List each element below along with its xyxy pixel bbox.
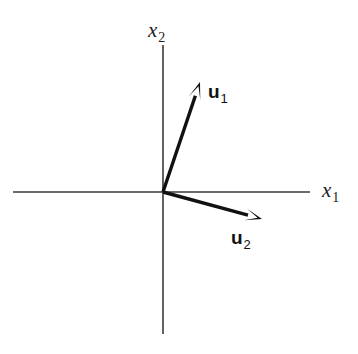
axis-label-x2: x2: [148, 20, 164, 41]
vector-label-u1-subscript: 1: [221, 91, 228, 106]
vector-u2-shaft: [163, 192, 248, 215]
vector-u2: [163, 192, 262, 220]
vector-label-u2-variable: u: [231, 227, 243, 248]
axis-label-x2-variable: x: [148, 18, 157, 42]
axis-label-x2-subscript: 2: [158, 30, 165, 45]
axis-label-x1-variable: x: [322, 178, 331, 202]
vector-diagram-figure: x2 x1 u1 u2: [0, 0, 358, 354]
vector-u1-shaft: [163, 96, 195, 192]
coordinate-plane-canvas: [0, 0, 358, 354]
vector-label-u2: u2: [231, 228, 250, 247]
vector-label-u2-subscript: 2: [244, 237, 251, 252]
axis-label-x1: x1: [322, 180, 338, 201]
vector-label-u1-variable: u: [208, 81, 220, 102]
axis-label-x1-subscript: 1: [332, 190, 339, 205]
vector-u1: [163, 82, 200, 192]
vector-label-u1: u1: [208, 82, 227, 101]
